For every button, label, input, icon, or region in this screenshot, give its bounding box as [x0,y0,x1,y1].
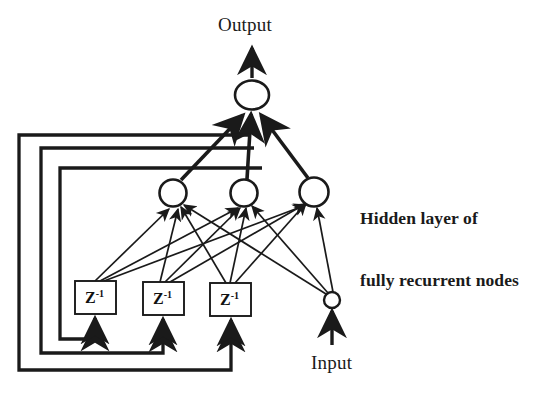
edge-h3-output [261,115,308,178]
rnn-diagram: Z-1 Z-1 Z-1 Output Input Hidden layer of… [0,0,553,394]
feedback-loop-middle [41,148,254,353]
feedback-loop-paths [19,135,262,370]
delay-input-arrows [95,318,231,338]
delay-block-2-label: Z-1 [153,289,172,308]
hidden-layer-label-line1: Hidden layer of [360,208,519,229]
hidden-node-1 [160,180,187,207]
delay-block-1-label-base: Z [85,289,96,306]
hidden-layer-label-line2: fully recurrent nodes [360,270,519,291]
delay-to-hidden-edges [95,203,333,294]
hidden-node-2 [231,180,258,207]
output-node [235,81,269,110]
delay-block-1-label-exp: -1 [96,288,104,299]
delay-block-3-label-exp: -1 [231,290,239,301]
delay-block-3-label: Z-1 [220,290,239,309]
delay-block-3-label-base: Z [220,291,231,308]
hidden-layer-label: Hidden layer of fully recurrent nodes [360,167,519,332]
delay-block-1-label: Z-1 [85,288,104,307]
delay-block-2-label-base: Z [153,290,164,307]
input-node [324,292,340,308]
feedback-loop-outer [19,135,250,370]
input-label: Input [311,352,352,374]
edge-input-h2 [252,206,328,293]
delay-block-2-label-exp: -1 [164,289,172,300]
output-label: Output [218,14,272,36]
hidden-node-3 [300,178,329,207]
edge-input-h3 [317,208,333,292]
